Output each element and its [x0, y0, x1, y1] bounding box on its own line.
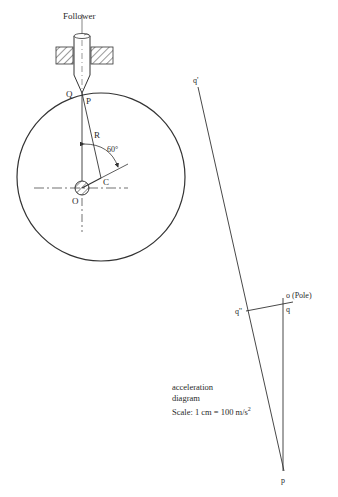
- point-C-label: C: [103, 177, 109, 187]
- diagram-caption: acceleration diagram Scale: 1 cm = 100 m…: [172, 382, 251, 418]
- caption-line1: acceleration: [172, 382, 251, 393]
- scale-text: Scale: 1 cm = 100 m/s: [172, 407, 248, 417]
- follower-label: Follower: [63, 11, 96, 21]
- pole-o-text: o: [286, 291, 290, 300]
- line-C-extension: [101, 164, 128, 178]
- point-R-label: R: [94, 130, 100, 140]
- angle-label: 60°: [107, 145, 118, 155]
- caption-line2: diagram: [172, 393, 251, 404]
- point-Q-label: Q: [66, 89, 73, 99]
- point-O-label: O: [72, 196, 79, 206]
- point-o-label: o (Pole): [286, 291, 312, 301]
- point-q-label: q: [286, 305, 290, 315]
- pole-text: (Pole): [292, 291, 312, 300]
- point-q-double-prime-label: q'': [235, 307, 242, 317]
- point-q-prime-label: q': [193, 76, 198, 86]
- point-P-label: P: [86, 96, 91, 106]
- mechanism-drawing: [0, 0, 338, 497]
- follower-rod: [74, 14, 90, 93]
- scale-line: Scale: 1 cm = 100 m/s2: [172, 404, 251, 418]
- point-p-label: p: [281, 476, 285, 486]
- scale-exponent: 2: [248, 406, 251, 412]
